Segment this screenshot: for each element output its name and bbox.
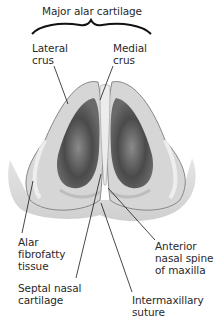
brace-icon bbox=[32, 20, 151, 34]
label-intermaxillary-suture: Intermaxillary suture bbox=[132, 294, 204, 318]
leader-lateral-crus bbox=[54, 66, 68, 104]
label-alar-fibrofatty-tissue: Alar fibrofatty tissue bbox=[18, 236, 65, 272]
label-anterior-nasal-spine: Anterior nasal spine of maxilla bbox=[155, 240, 213, 276]
label-lateral-crus: Lateral crus bbox=[32, 42, 68, 66]
label-septal-nasal-cartilage: Septal nasal cartilage bbox=[18, 282, 81, 306]
label-medial-crus: Medial crus bbox=[113, 42, 147, 66]
